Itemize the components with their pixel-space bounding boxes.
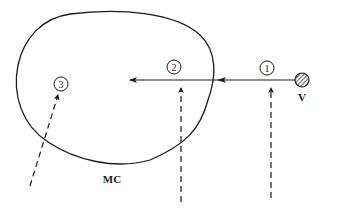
mc-region-label: MC (103, 173, 121, 185)
marker-3-label: 3 (59, 79, 64, 90)
mc-region-boundary (16, 12, 214, 164)
marker-2-label: 2 (172, 62, 177, 73)
dashed-probe-3 (30, 95, 58, 186)
source-v-label: V (298, 91, 306, 103)
diagram-canvas: V 1 2 3 MC (0, 0, 348, 211)
source-v-icon (295, 73, 309, 87)
marker-1-label: 1 (265, 63, 270, 74)
